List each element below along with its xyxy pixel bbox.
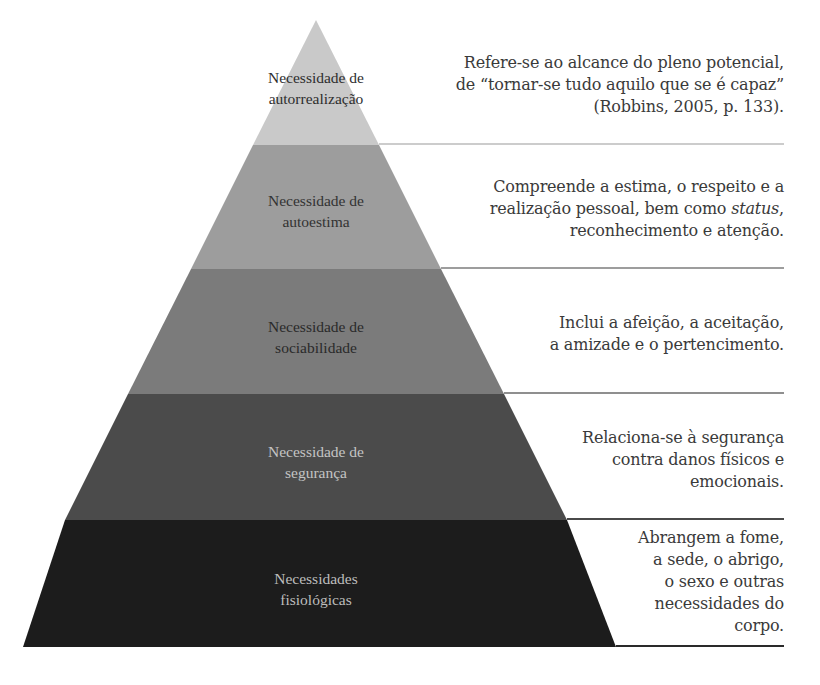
description-line: Compreende a estima, o respeito e a	[490, 176, 784, 198]
layer-label-fisiologicas: Necessidades fisiológicas	[216, 568, 416, 610]
layer-label-line: sociabilidade	[216, 337, 416, 358]
description-line: Relaciona-se à segurança	[582, 427, 784, 449]
description-autorrealizacao: Refere-se ao alcance do pleno potencial,…	[456, 52, 784, 118]
description-line: corpo.	[638, 615, 784, 637]
layer-label-line: Necessidade de	[216, 190, 416, 211]
description-line: a amizade e o pertencimento.	[550, 334, 784, 356]
layer-label-seguranca: Necessidade de segurança	[216, 441, 416, 483]
description-line: realização pessoal, bem como status,	[490, 198, 784, 220]
description-line: (Robbins, 2005, p. 133).	[456, 96, 784, 118]
description-fisiologicas: Abrangem a fome, a sede, o abrigo, o sex…	[638, 527, 784, 637]
layer-label-line: segurança	[216, 462, 416, 483]
layer-label-line: fisiológicas	[216, 589, 416, 610]
description-sociabilidade: Inclui a afeição, a aceitação, a amizade…	[550, 312, 784, 356]
description-line: reconhecimento e atenção.	[490, 220, 784, 242]
description-text: ,	[779, 199, 784, 218]
layer-label-line: autoestima	[216, 211, 416, 232]
layer-label-sociabilidade: Necessidade de sociabilidade	[216, 316, 416, 358]
description-line: de “tornar-se tudo aquilo que se é capaz…	[456, 74, 784, 96]
description-line: Inclui a afeição, a aceitação,	[550, 312, 784, 334]
layer-label-autorrealizacao: Necessidade de autorrealização	[216, 67, 416, 109]
layer-label-autoestima: Necessidade de autoestima	[216, 190, 416, 232]
description-line: o sexo e outras	[638, 571, 784, 593]
layer-label-line: Necessidades	[216, 568, 416, 589]
description-italic-term: status	[731, 199, 779, 218]
layer-label-line: Necessidade de	[216, 316, 416, 337]
description-line: necessidades do	[638, 593, 784, 615]
layer-label-line: Necessidade de	[216, 67, 416, 88]
description-line: emocionais.	[582, 471, 784, 493]
description-line: Refere-se ao alcance do pleno potencial,	[456, 52, 784, 74]
description-autoestima: Compreende a estima, o respeito e a real…	[490, 176, 784, 242]
description-seguranca: Relaciona-se à segurança contra danos fí…	[582, 427, 784, 493]
layer-label-line: Necessidade de	[216, 441, 416, 462]
description-line: Abrangem a fome,	[638, 527, 784, 549]
description-text: realização pessoal, bem como	[490, 199, 731, 218]
layer-label-line: autorrealização	[216, 88, 416, 109]
description-line: a sede, o abrigo,	[638, 549, 784, 571]
description-line: contra danos físicos e	[582, 449, 784, 471]
